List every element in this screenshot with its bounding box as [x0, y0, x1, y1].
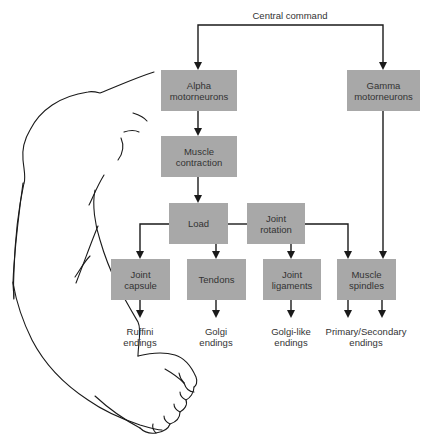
alpha-motorneurons-box: Alpha motorneurons: [161, 70, 237, 111]
primary-secondary-endings-label: Primary/Secondary endings: [318, 326, 414, 348]
central-command-label: Central command: [240, 10, 340, 21]
golgi-like-endings-label: Golgi-like endings: [260, 326, 322, 348]
golgi-endings-label: Golgi endings: [186, 326, 246, 348]
joint-rotation-box: Joint rotation: [247, 203, 305, 244]
joint-capsule-box: Joint capsule: [111, 259, 170, 300]
gamma-motorneurons-box: Gamma motorneurons: [347, 70, 420, 111]
arm-illustration: [13, 72, 197, 433]
joint-ligaments-box: Joint ligaments: [263, 259, 321, 300]
tendons-box: Tendons: [187, 259, 246, 300]
muscle-contraction-box: Muscle contraction: [161, 136, 237, 177]
load-box: Load: [169, 203, 228, 244]
ruffini-endings-label: Ruffini endings: [110, 326, 170, 348]
muscle-spindles-box: Muscle spindles: [337, 259, 396, 300]
